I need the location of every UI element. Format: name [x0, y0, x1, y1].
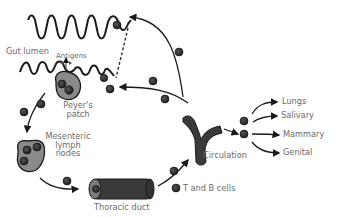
lymphocyte	[113, 21, 121, 29]
lymphocyte-homing-diagram: Gut lumen Antigens Peyer's patch Mesente…	[0, 0, 337, 218]
arrow-to-lungs	[252, 102, 277, 114]
arrow-mesenteric-to-thoracic	[40, 178, 78, 189]
thoracic-duct	[89, 179, 154, 199]
arrow-to-mammary	[252, 134, 279, 135]
label-peyers-patch: Peyer's patch	[58, 101, 98, 118]
label-lungs: Lungs	[282, 97, 306, 106]
arrow-peyers-to-mesenteric	[27, 93, 45, 132]
diagram-graphics	[0, 0, 337, 218]
label-thoracic-duct: Thoracic duct	[94, 203, 150, 212]
label-antigens: Antigens	[56, 53, 87, 60]
dashed-connection	[116, 28, 128, 78]
label-circulation: Circulation	[203, 151, 247, 160]
label-mammary: Mammary	[283, 130, 324, 139]
arrow-circulation-to-lower-gut	[120, 87, 188, 103]
arrow-circulation-to-upper-gut	[130, 17, 183, 97]
arrow-to-salivary	[253, 116, 277, 122]
label-genital: Genital	[283, 148, 312, 157]
label-salivary: Salivary	[281, 111, 314, 120]
label-mesenteric-lymph-nodes: Mesenteric lymph nodes	[44, 132, 92, 158]
arrow-to-genital	[252, 142, 279, 153]
label-gut-lumen: Gut lumen	[6, 47, 49, 56]
label-t-and-b-cells: T and B cells	[183, 184, 235, 193]
